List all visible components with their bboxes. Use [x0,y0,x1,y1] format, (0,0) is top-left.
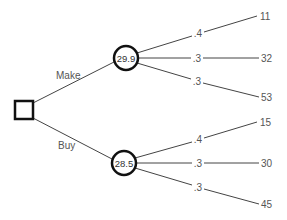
probability-buy-1: .4 [194,134,203,145]
decision-tree: Make Buy 29.9 28.5 .4 .3 .3 11 32 53 .4 … [0,0,287,220]
branch-label-buy: Buy [58,140,75,151]
edge-buy-3a [135,168,192,185]
outcome-buy-1: 15 [260,117,272,128]
edge-make-1a [137,36,192,53]
edge-buy-3b [204,189,259,204]
outcome-make-3: 53 [261,92,273,103]
edge-buy [33,118,112,159]
branch-label-make: Make [56,70,81,81]
decision-node [15,101,33,119]
expected-value-buy: 28.5 [115,158,134,169]
edge-make-3a [137,63,191,79]
outcome-buy-3: 45 [261,199,273,210]
probability-buy-2: .3 [194,158,203,169]
outcome-make-2: 32 [261,53,273,64]
probability-make-2: .3 [193,53,202,64]
probability-make-3: .3 [193,76,202,87]
edge-make-1b [204,16,257,32]
edge-buy-1b [204,122,257,138]
probability-make-1: .4 [194,28,203,39]
expected-value-make: 29.9 [117,53,136,64]
edge-buy-1a [135,142,192,158]
edge-make-3b [203,83,259,97]
probability-buy-3: .3 [194,182,203,193]
edge-make [33,62,114,103]
outcome-buy-2: 30 [261,158,273,169]
outcome-make-1: 11 [260,11,271,22]
